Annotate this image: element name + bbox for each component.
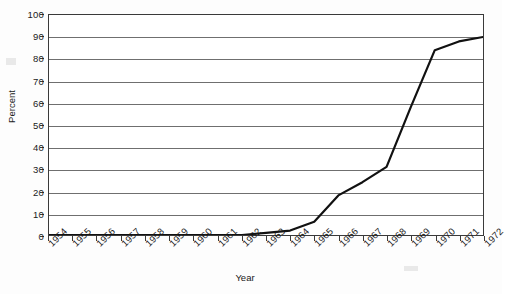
y-tick-label: 10	[8, 208, 44, 219]
x-tick-label: 1972	[482, 225, 505, 248]
y-tick-label: 90	[8, 31, 44, 42]
plot-area	[48, 14, 484, 236]
scan-artifact	[404, 266, 418, 271]
y-tick-label: 30	[8, 164, 44, 175]
y-tick-label: 20	[8, 186, 44, 197]
y-tick-label: 40	[8, 142, 44, 153]
x-axis-tick-labels: 1954195519561957195819591960196119621963…	[0, 236, 502, 244]
series-line-percent	[49, 15, 483, 235]
y-axis-tick-labels: 0102030405060708090100	[0, 0, 44, 294]
y-tick-label: 80	[8, 53, 44, 64]
y-axis-title: Percent	[6, 77, 17, 137]
y-tick-label: 100	[8, 9, 44, 20]
x-axis-title: Year	[205, 272, 285, 283]
